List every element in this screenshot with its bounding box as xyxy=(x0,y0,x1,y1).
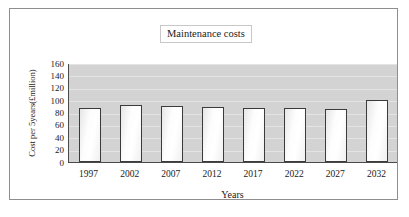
y-axis-tick-120: 120 xyxy=(51,84,65,93)
x-axis-tick-1997: 1997 xyxy=(79,169,98,180)
bar-series xyxy=(69,64,397,162)
y-axis-tick-0: 0 xyxy=(60,159,65,168)
x-axis-tick-2022: 2022 xyxy=(285,169,304,180)
x-axis-tick-2012: 2012 xyxy=(202,169,221,180)
bar-2012 xyxy=(202,107,224,162)
bar-2007 xyxy=(161,106,183,162)
bar-2002 xyxy=(120,105,142,162)
bar-2017 xyxy=(243,108,265,162)
plot-area xyxy=(68,64,397,163)
y-axis-tick-40: 40 xyxy=(55,134,64,143)
chart-title: Maintenance costs xyxy=(160,25,252,43)
x-axis-tick-2017: 2017 xyxy=(244,169,263,180)
bar-2027 xyxy=(325,109,347,162)
y-axis-title-label: Cost per 5years(£million) xyxy=(27,69,37,156)
x-axis-tick-2002: 2002 xyxy=(120,169,139,180)
bar-2032 xyxy=(366,100,388,162)
y-axis-tick-20: 20 xyxy=(55,146,64,155)
y-axis-tick-100: 100 xyxy=(51,97,65,106)
bar-2022 xyxy=(284,108,306,162)
y-axis-title: Cost per 5years(£million) xyxy=(25,61,39,165)
x-axis-tick-2032: 2032 xyxy=(367,169,386,180)
y-axis-tick-labels: 160140120100806040200 xyxy=(40,59,66,166)
x-axis-tick-labels: 19972002200720122017202220272032 xyxy=(68,169,397,183)
x-axis-title: Years xyxy=(68,189,397,200)
y-axis-tick-60: 60 xyxy=(55,121,64,130)
x-axis-tick-2007: 2007 xyxy=(161,169,180,180)
x-axis-tick-2027: 2027 xyxy=(326,169,345,180)
chart-frame: Maintenance costs Cost per 5years(£milli… xyxy=(9,8,398,200)
bar-1997 xyxy=(79,108,101,162)
y-axis-tick-80: 80 xyxy=(55,109,64,118)
y-axis-tick-140: 140 xyxy=(51,72,65,81)
y-axis-tick-160: 160 xyxy=(51,60,65,69)
